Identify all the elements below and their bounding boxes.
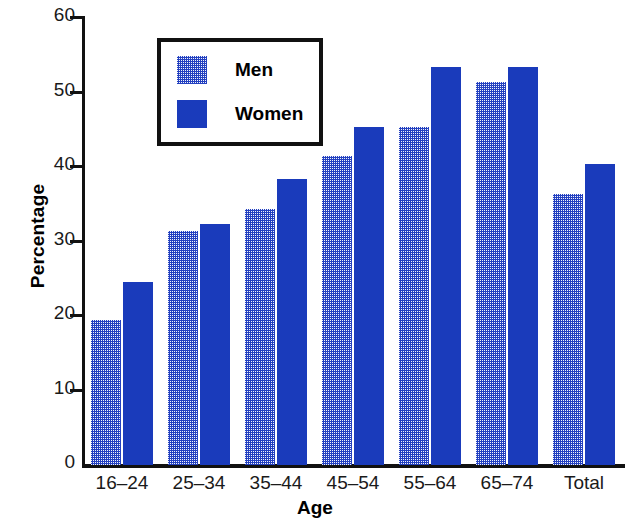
y-tick-label: 0 bbox=[29, 451, 75, 473]
y-tick-label: 60 bbox=[29, 4, 75, 26]
bar-men-3544 bbox=[245, 209, 275, 465]
bar-women-Total bbox=[585, 164, 615, 465]
chart-legend: Men Women bbox=[157, 38, 323, 146]
y-tick-label: 40 bbox=[29, 153, 75, 175]
y-tick-label: 10 bbox=[29, 377, 75, 399]
bar-group bbox=[395, 17, 472, 465]
legend-swatch-women-icon bbox=[177, 100, 207, 128]
bar-men-2534 bbox=[168, 231, 198, 465]
y-tick-label: 30 bbox=[29, 228, 75, 250]
bar-group bbox=[87, 17, 164, 465]
bar-women-4554 bbox=[354, 127, 384, 465]
bar-group bbox=[549, 17, 626, 465]
x-tick-label: Total bbox=[538, 472, 630, 494]
bar-women-3544 bbox=[277, 179, 307, 465]
legend-label-men: Men bbox=[235, 59, 273, 81]
legend-swatch-men-icon bbox=[177, 56, 207, 84]
bar-men-1624 bbox=[91, 320, 121, 465]
bar-chart: Percentage 0102030405060 16–2425–3435–44… bbox=[0, 0, 630, 527]
y-axis-ticks: 0102030405060 bbox=[20, 0, 75, 527]
bar-women-2534 bbox=[200, 224, 230, 465]
bar-group bbox=[318, 17, 395, 465]
bar-men-5564 bbox=[399, 127, 429, 465]
bar-men-6574 bbox=[476, 82, 506, 465]
bar-men-Total bbox=[553, 194, 583, 465]
legend-label-women: Women bbox=[235, 103, 303, 125]
bar-women-1624 bbox=[123, 282, 153, 465]
y-tick-label: 20 bbox=[29, 302, 75, 324]
x-axis-title: Age bbox=[0, 497, 630, 519]
bar-women-5564 bbox=[431, 67, 461, 465]
bar-men-4554 bbox=[322, 156, 352, 465]
bar-women-6574 bbox=[508, 67, 538, 465]
bar-group bbox=[472, 17, 549, 465]
y-tick-label: 50 bbox=[29, 79, 75, 101]
